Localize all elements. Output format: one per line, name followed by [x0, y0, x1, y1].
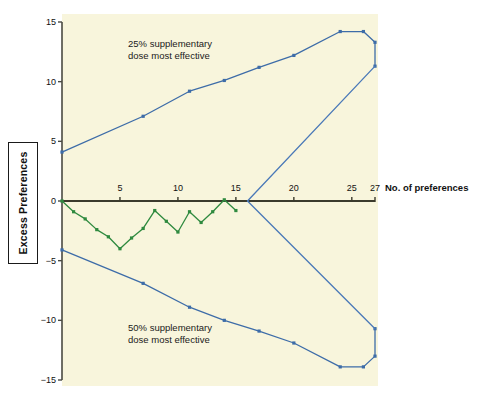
data-point-lower-boundary [339, 365, 342, 368]
data-point-observed-excess-preferences [60, 199, 63, 202]
data-point-observed-excess-preferences [95, 228, 98, 231]
data-point-upper-boundary [188, 90, 191, 93]
data-point-observed-excess-preferences [234, 209, 237, 212]
y-tick-label-15: 15 [34, 17, 56, 27]
data-point-observed-excess-preferences [200, 221, 203, 224]
data-point-upper-boundary [373, 41, 376, 44]
data-point-observed-excess-preferences [84, 217, 87, 220]
data-point-upper-boundary [142, 115, 145, 118]
data-point-upper-boundary [223, 79, 226, 82]
data-point-lower-boundary [223, 319, 226, 322]
series-line-upper-convergence-ray [247, 66, 375, 201]
data-point-observed-excess-preferences [223, 198, 226, 201]
y-tick-label-0: 0 [34, 196, 56, 206]
data-point-lower-boundary [373, 355, 376, 358]
data-point-observed-excess-preferences [176, 230, 179, 233]
data-point-observed-excess-preferences [72, 210, 75, 213]
x-tick-label-15: 15 [231, 183, 241, 193]
y-tick-label--5: −5 [34, 256, 56, 266]
lower-annotation: 50% supplementary dose most effective [128, 322, 212, 346]
chart-canvas [0, 0, 494, 400]
x-tick-label-27: 27 [370, 183, 380, 193]
data-point-upper-boundary [362, 30, 365, 33]
y-tick-label-10: 10 [34, 77, 56, 87]
x-tick-label-10: 10 [173, 183, 183, 193]
x-tick-label-25: 25 [347, 183, 357, 193]
chart-container: Excess Preferences No. of preferences 25… [0, 0, 494, 400]
data-point-upper-boundary [292, 54, 295, 57]
data-point-lower-boundary [142, 282, 145, 285]
upper-annotation: 25% supplementary dose most effective [128, 38, 212, 62]
data-point-lower-boundary [188, 306, 191, 309]
lower-annotation-line2: dose most effective [128, 334, 212, 346]
y-axis-label: Excess Preferences [17, 152, 29, 255]
data-point-observed-excess-preferences [153, 209, 156, 212]
data-point-observed-excess-preferences [188, 210, 191, 213]
x-tick-label-20: 20 [289, 183, 299, 193]
x-tick-label-5: 5 [117, 183, 122, 193]
y-tick-label-5: 5 [34, 136, 56, 146]
series-line-upper-boundary [62, 32, 375, 153]
data-point-observed-excess-preferences [118, 247, 121, 250]
y-tick-label--15: −15 [34, 375, 56, 385]
data-point-upper-boundary [60, 150, 63, 153]
data-point-lower-boundary [292, 341, 295, 344]
data-point-observed-excess-preferences [107, 235, 110, 238]
data-point-lower-boundary [60, 248, 63, 251]
data-point-observed-excess-preferences [211, 210, 214, 213]
data-point-observed-excess-preferences [165, 220, 168, 223]
upper-annotation-line1: 25% supplementary [128, 38, 212, 50]
data-point-lower-boundary [257, 329, 260, 332]
series-line-observed-excess-preferences [62, 200, 236, 249]
data-point-observed-excess-preferences [130, 236, 133, 239]
x-axis-label: No. of preferences [385, 182, 468, 193]
series-line-lower-convergence-ray [247, 201, 375, 329]
series-line-lower-boundary [62, 250, 375, 367]
data-point-upper-boundary [257, 66, 260, 69]
y-tick-label--10: −10 [34, 315, 56, 325]
upper-annotation-line2: dose most effective [128, 50, 212, 62]
data-point-upper-boundary [339, 30, 342, 33]
data-point-lower-boundary [362, 365, 365, 368]
data-point-observed-excess-preferences [142, 227, 145, 230]
lower-annotation-line1: 50% supplementary [128, 322, 212, 334]
